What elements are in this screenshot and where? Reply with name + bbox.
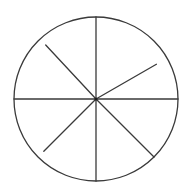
center-point — [94, 97, 97, 100]
spoke-lower-left — [44, 99, 96, 151]
spoke-upper-left — [46, 45, 96, 99]
divided-circle-diagram — [0, 0, 185, 190]
spoke-upper-right — [96, 64, 156, 99]
spoke-lower-right — [96, 99, 154, 157]
